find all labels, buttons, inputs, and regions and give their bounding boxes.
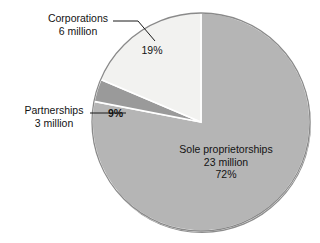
slice-label-partnerships-name: Partnerships <box>2 104 106 117</box>
slice-percent-sole-proprietorships: 72% <box>166 168 286 181</box>
pie-chart-figure: Corporations 6 million 19% Partnerships … <box>0 0 320 243</box>
slice-percent-corporations: 19% <box>131 44 173 57</box>
slice-percent-partnerships: 9% <box>108 107 142 120</box>
slice-label-corporations: Corporations 6 million <box>26 12 130 37</box>
slice-label-sole-proprietorships: Sole proprietorships 23 million 72% <box>166 143 286 181</box>
slice-label-corporations-value: 6 million <box>26 25 130 38</box>
slice-label-corporations-name: Corporations <box>26 12 130 25</box>
slice-label-sole-proprietorships-value: 23 million <box>166 156 286 169</box>
slice-label-partnerships-value: 3 million <box>2 117 106 130</box>
slice-label-partnerships: Partnerships 3 million <box>2 104 106 129</box>
slice-label-sole-proprietorships-name: Sole proprietorships <box>166 143 286 156</box>
